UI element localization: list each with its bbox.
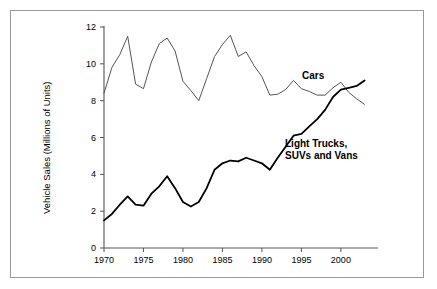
x-tick-label: 1990 bbox=[242, 255, 282, 265]
x-tick-label: 2000 bbox=[321, 255, 361, 265]
series-label-light-trucks: Light Trucks, SUVs and Vans bbox=[285, 138, 358, 161]
y-tick-label: 10 bbox=[0, 59, 96, 69]
chart-figure: 024681012 1970197519801985199019952000 V… bbox=[0, 0, 437, 289]
x-tick-label: 1975 bbox=[123, 255, 163, 265]
series-label-line2: SUVs and Vans bbox=[285, 150, 358, 161]
y-tick-label: 0 bbox=[0, 243, 96, 253]
y-axis-title: Vehicle Sales (Millions of Units) bbox=[42, 81, 52, 214]
x-tick-label: 1970 bbox=[84, 255, 124, 265]
series-label-cars: Cars bbox=[302, 70, 324, 82]
y-tick-label: 12 bbox=[0, 22, 96, 32]
data-series bbox=[104, 35, 365, 220]
series-line-cars bbox=[104, 35, 365, 104]
x-tick-label: 1995 bbox=[281, 255, 321, 265]
series-label-line1: Light Trucks, bbox=[285, 138, 347, 149]
x-tick-label: 1985 bbox=[202, 255, 242, 265]
x-tick-label: 1980 bbox=[163, 255, 203, 265]
